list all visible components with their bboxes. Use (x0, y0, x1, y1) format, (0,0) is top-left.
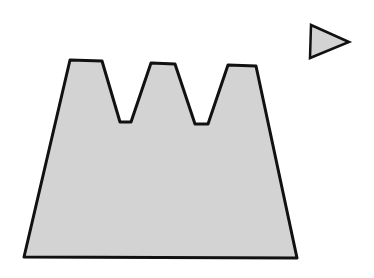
diagram-canvas (0, 0, 374, 278)
triangle-shape (310, 25, 349, 58)
crown-shape (24, 60, 297, 258)
